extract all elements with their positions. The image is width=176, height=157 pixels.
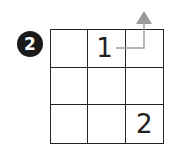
up-arrow-icon — [0, 0, 176, 157]
